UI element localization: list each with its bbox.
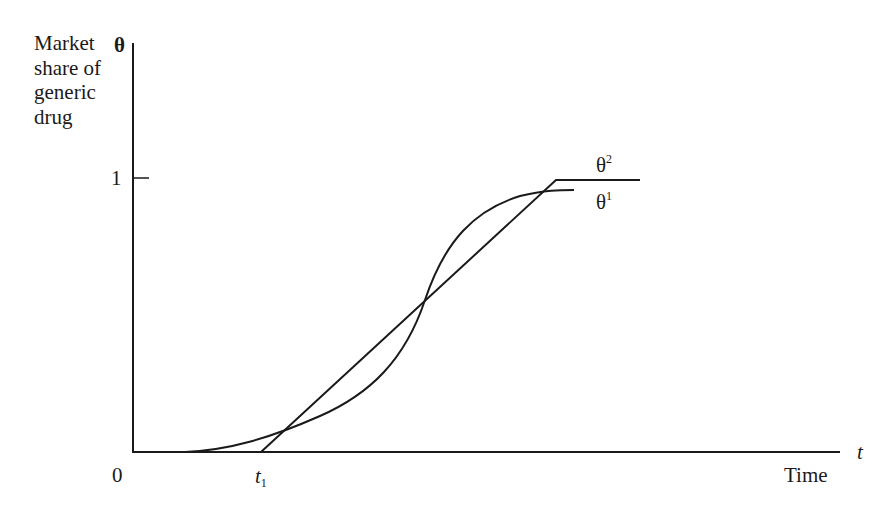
series-theta1-curve [185,190,574,452]
y-axis-label-line: drug [34,105,101,130]
x-tick-label-t1: t1 [255,464,267,488]
theta1-base: θ [596,190,606,214]
y-axis-label-line: share of [34,56,101,81]
y-axis-label: Market share of generic drug [34,31,101,129]
x-axis-symbol: t [857,440,863,464]
x-axis-label: Time [784,463,828,487]
t1-subscript: 1 [261,476,267,490]
theta2-base: θ [596,153,606,177]
theta2-superscript: 2 [606,152,612,166]
series-label-theta1: θ1 [596,190,612,214]
y-axis-symbol: θ [114,33,125,57]
series-theta2-line [261,180,640,452]
y-axis-label-line: generic [34,80,101,105]
theta1-superscript: 1 [606,189,612,203]
y-tick-label-one: 1 [111,166,122,190]
chart-canvas [0,0,891,515]
origin-label: 0 [112,463,123,487]
series-label-theta2: θ2 [596,153,612,177]
y-axis-label-line: Market [34,31,101,56]
